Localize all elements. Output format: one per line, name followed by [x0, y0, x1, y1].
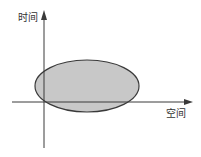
y-axis-label: 时间: [18, 12, 38, 24]
x-axis-arrow-icon: [184, 99, 193, 105]
x-axis-label: 空间: [166, 108, 186, 120]
y-axis-arrow-icon: [41, 10, 47, 20]
spacetime-region-ellipse: [35, 60, 139, 112]
